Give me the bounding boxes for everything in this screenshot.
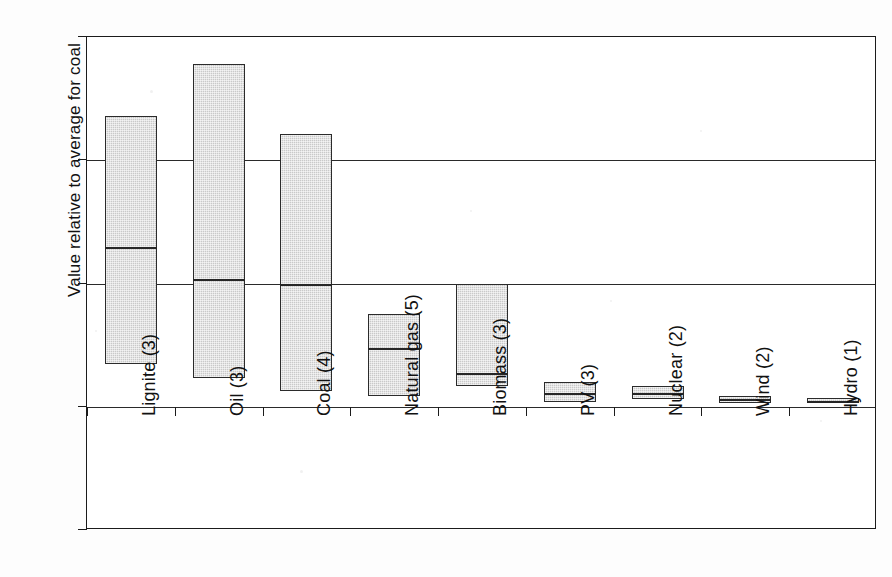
x-tick-mark xyxy=(263,407,264,416)
x-tick-mark xyxy=(87,407,88,416)
x-tick-mark xyxy=(526,407,527,416)
x-category-label: Biomass (3) xyxy=(490,318,511,416)
x-category-label: Oil (3) xyxy=(227,365,248,415)
x-category-label: Lignite (3) xyxy=(139,334,160,416)
chart-container: Value relative to average for coal 3210-… xyxy=(0,0,892,577)
x-tick-mark xyxy=(789,407,790,416)
median-line xyxy=(105,247,157,249)
x-category-label: Natural gas (5) xyxy=(402,294,423,416)
x-category-label: Coal (4) xyxy=(314,350,335,416)
y-tick-mark xyxy=(78,529,87,530)
x-tick-mark xyxy=(614,407,615,416)
x-category-label: PV (3) xyxy=(578,364,599,416)
bar-oil xyxy=(193,64,245,378)
bar-lignite xyxy=(105,116,157,364)
plot-area xyxy=(86,36,876,529)
median-line xyxy=(193,279,245,281)
y-axis-title: Value relative to average for coal xyxy=(65,20,85,320)
x-tick-mark xyxy=(701,407,702,416)
x-tick-mark xyxy=(438,407,439,416)
x-category-label: Nuclear (2) xyxy=(666,325,687,416)
median-line xyxy=(280,284,332,286)
x-category-label: Wind (2) xyxy=(753,346,774,416)
x-tick-mark xyxy=(350,407,351,416)
x-category-label: Hydro (1) xyxy=(841,339,862,416)
x-tick-mark xyxy=(175,407,176,416)
